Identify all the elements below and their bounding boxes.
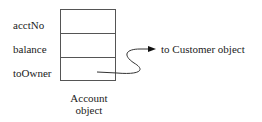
caption-line-1: Account xyxy=(60,92,118,104)
caption-line-2: object xyxy=(60,104,118,116)
pointer-arrow-icon xyxy=(0,0,262,122)
pointer-target-label: to Customer object xyxy=(161,43,245,55)
object-caption: Account object xyxy=(60,92,118,116)
